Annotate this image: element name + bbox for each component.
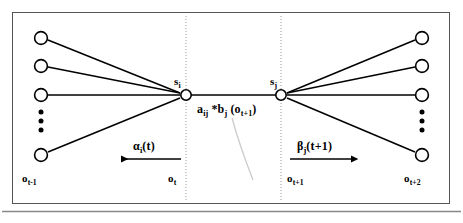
beta-label: βj(t+1) [297,140,332,156]
right-node-4 [416,149,429,162]
right-vertical-ellipsis-icon [420,110,425,133]
left-observation-nodes [35,32,48,162]
state-label-si: si [174,76,181,90]
right-node-2 [416,60,429,73]
right-fan-edges [287,40,415,152]
formula-leader-line [232,118,253,180]
observation-label-t: ot [168,173,176,187]
observation-label-t-minus-1: ot-1 [22,173,37,187]
state-label-sj: sj [270,76,277,90]
alpha-label: αi(t) [133,140,155,156]
state-node-sj [276,90,286,100]
figure-root: si sj aij *bj (ot+1) αi(t) βj(t+1) ot-1 … [0,0,463,223]
left-vertical-ellipsis-icon [39,110,44,133]
right-observation-nodes [416,32,429,162]
left-node-4 [35,149,48,162]
left-node-3 [35,89,48,102]
right-node-3 [416,89,429,102]
transition-formula-label: aij *bj (ot+1) [197,103,256,119]
observation-label-t-plus-2: ot+2 [404,173,421,187]
observation-label-t-plus-1: ot+1 [287,173,304,187]
left-node-1 [35,32,48,45]
state-node-si [181,90,191,100]
left-node-2 [35,60,48,73]
right-node-1 [416,32,429,45]
left-fan-edges [48,40,180,152]
